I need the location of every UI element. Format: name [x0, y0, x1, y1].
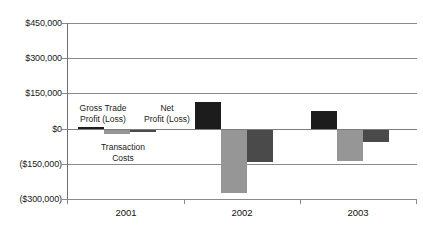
x-tick-label-2002: 2002 — [212, 207, 272, 218]
bar-2003-series-3 — [363, 129, 389, 142]
transaction-costs-label-line2: Costs — [91, 153, 155, 164]
bar-2002-series-2 — [221, 129, 247, 193]
x-tickmark-3 — [300, 199, 301, 204]
bar-2003-series-2 — [337, 129, 363, 161]
x-tickmark-4 — [416, 199, 417, 204]
gross-trade-profit-label-line2: Profit (Loss) — [70, 114, 136, 125]
x-tickmark-2 — [184, 199, 185, 204]
bar-chart: $450,000 $300,000 $150,000 $0 ($150,000)… — [0, 0, 423, 229]
bar-2002-series-3 — [247, 129, 273, 162]
net-profit-label: Net Profit (Loss) — [136, 103, 198, 125]
bar-2002-series-1 — [195, 102, 221, 129]
gross-trade-profit-label-line1: Gross Trade — [70, 103, 136, 114]
bar-2003-series-1 — [311, 111, 337, 129]
net-profit-label-line2: Profit (Loss) — [136, 114, 198, 125]
net-profit-label-line1: Net — [136, 103, 198, 114]
gridline-zero — [67, 129, 417, 130]
x-tickmark-1 — [67, 199, 68, 204]
transaction-costs-label: Transaction Costs — [91, 142, 155, 164]
x-tick-label-2001: 2001 — [96, 207, 156, 218]
transaction-costs-label-line1: Transaction — [91, 142, 155, 153]
x-tick-label-2003: 2003 — [328, 207, 388, 218]
gross-trade-profit-label: Gross Trade Profit (Loss) — [70, 103, 136, 125]
